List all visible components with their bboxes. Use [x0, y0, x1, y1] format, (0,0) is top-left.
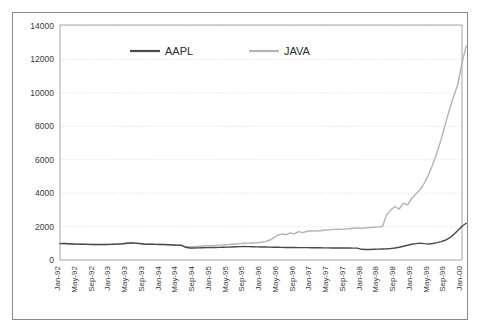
x-tick-label: May-93	[120, 265, 129, 292]
chart-legend: AAPLJAVA	[130, 45, 311, 57]
x-tick-label: Sep-94	[187, 265, 196, 291]
x-tick-label: Sep-99	[438, 265, 447, 291]
x-tick-label: May-97	[321, 265, 330, 292]
x-tick-label: Jan-00	[455, 265, 464, 290]
x-tick-label: Sep-92	[87, 265, 96, 291]
y-axis-tick-labels: 02000400060008000100001200014000	[30, 21, 54, 265]
x-tick-label: May-92	[70, 265, 79, 292]
x-tick-label: Jan-92	[53, 265, 62, 290]
y-tick-label: 6000	[35, 155, 54, 165]
line-chart: 02000400060008000100001200014000 Jan-92M…	[13, 13, 469, 321]
x-tick-label: Jan-99	[405, 265, 414, 290]
x-tick-label: Jan-95	[204, 265, 213, 290]
x-tick-label: May-98	[371, 265, 380, 292]
x-tick-label: Sep-95	[237, 265, 246, 291]
x-tick-label: May-96	[271, 265, 280, 292]
legend-label-aapl: AAPL	[165, 45, 193, 57]
x-tick-label: Jan-93	[103, 265, 112, 290]
y-tick-label: 4000	[35, 188, 54, 198]
y-tick-label: 12000	[30, 54, 54, 64]
x-tick-label: Sep-93	[137, 265, 146, 291]
x-tick-label: Sep-98	[388, 265, 397, 291]
x-axis-tick-labels: Jan-92May-92Sep-92Jan-93May-93Sep-93Jan-…	[53, 265, 464, 292]
y-tick-label: 2000	[35, 222, 54, 232]
y-tick-label: 10000	[30, 88, 54, 98]
x-tick-label: Jan-98	[355, 265, 364, 290]
x-tick-label: Jan-96	[254, 265, 263, 290]
y-tick-label: 0	[49, 255, 54, 265]
x-tick-label: Jan-97	[304, 265, 313, 290]
x-tick-label: May-99	[422, 265, 431, 292]
gridlines-group	[60, 25, 462, 260]
chart-plot-area: 02000400060008000100001200014000 Jan-92M…	[13, 13, 469, 321]
x-tick-label: May-95	[221, 265, 230, 292]
series-group	[60, 46, 466, 249]
x-tick-label: Sep-97	[338, 265, 347, 291]
chart-frame: 02000400060008000100001200014000 Jan-92M…	[12, 12, 468, 320]
series-line-java	[60, 46, 466, 247]
series-line-aapl	[60, 223, 466, 249]
x-tick-label: May-94	[170, 265, 179, 292]
y-tick-label: 8000	[35, 121, 54, 131]
y-tick-label: 14000	[30, 21, 54, 31]
legend-label-java: JAVA	[284, 45, 311, 57]
x-tick-label: Jan-94	[154, 265, 163, 290]
x-tick-label: Sep-96	[288, 265, 297, 291]
